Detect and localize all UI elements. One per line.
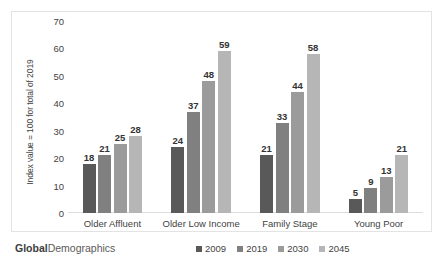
bar-column[interactable]: 18 [83,21,96,213]
legend-item[interactable]: 2030 [278,243,308,254]
bar-column[interactable]: 21 [98,21,111,213]
legend-item[interactable]: 2045 [319,243,349,254]
bar[interactable] [129,136,142,213]
bar-column[interactable]: 9 [364,21,377,213]
bar[interactable] [114,144,127,213]
y-axis-tick-label: 60 [53,43,64,54]
bar[interactable] [380,177,393,213]
brand-name-bold: Global [15,242,48,254]
category-label: Young Poor [354,218,403,229]
bar[interactable] [98,155,111,213]
bar[interactable] [171,147,184,213]
bar[interactable] [202,81,215,213]
category-axis-labels: Older AffluentOlder Low IncomeFamily Sta… [68,218,423,234]
y-axis-title: Index value = 100 for total of 2019 [24,0,37,32]
category-label: Older Low Income [163,218,240,229]
bar-column[interactable]: 44 [291,21,304,213]
bar-group: 591321 [334,21,423,213]
bar[interactable] [395,155,408,213]
bar-value-label: 58 [308,42,319,53]
bar-value-label: 59 [219,39,230,50]
bar-column[interactable]: 13 [380,21,393,213]
bar[interactable] [364,188,377,213]
bar-value-label: 33 [277,111,288,122]
bar-group: 24374859 [157,21,246,213]
legend-item[interactable]: 2009 [196,243,226,254]
bar-column[interactable]: 21 [260,21,273,213]
bar[interactable] [291,92,304,213]
y-axis-tick-label: 50 [53,70,64,81]
chart-legend: 2009201920302045 [196,243,361,254]
bar-value-label: 48 [204,69,215,80]
category-label: Older Affluent [84,218,141,229]
legend-label: 2009 [205,243,226,254]
legend-label: 2019 [246,243,267,254]
bar-group: 21334458 [246,21,335,213]
y-axis-tick-label: 0 [59,208,64,219]
bar-column[interactable]: 21 [395,21,408,213]
legend-swatch-icon [278,246,284,252]
bar-column[interactable]: 58 [307,21,320,213]
bar-value-label: 9 [368,176,373,187]
bar-column[interactable]: 5 [349,21,362,213]
legend-swatch-icon [319,246,325,252]
y-axis-tick-label: 30 [53,125,64,136]
bar[interactable] [187,112,200,213]
brand-name-rest: Demographics [48,242,116,254]
bar-column[interactable]: 37 [187,21,200,213]
chart-footer: GlobalDemographics 2009201920302045 [0,240,444,267]
bar-column[interactable]: 24 [171,21,184,213]
bar-column[interactable]: 48 [202,21,215,213]
legend-swatch-icon [237,246,243,252]
legend-label: 2045 [328,243,349,254]
y-axis-title-text: Index value = 100 for total of 2019 [24,32,37,212]
bar[interactable] [276,123,289,214]
bar-group: 18212528 [68,21,157,213]
bar-value-label: 25 [115,132,126,143]
bar-column[interactable]: 28 [129,21,142,213]
bar-value-label: 24 [173,135,184,146]
bar[interactable] [83,164,96,213]
bar-column[interactable]: 25 [114,21,127,213]
bar[interactable] [218,51,231,213]
category-label: Family Stage [262,218,317,229]
bar-column[interactable]: 59 [218,21,231,213]
bar[interactable] [260,155,273,213]
bar-value-label: 28 [130,124,141,135]
brand-logo: GlobalDemographics [15,242,115,254]
y-axis-tick-label: 70 [53,16,64,27]
bar-value-label: 18 [84,152,95,163]
bar-value-label: 21 [397,143,408,154]
legend-item[interactable]: 2019 [237,243,267,254]
chart-frame: Index value = 100 for total of 2019 0102… [11,11,432,232]
bar[interactable] [307,54,320,213]
y-axis-tick-label: 20 [53,153,64,164]
y-axis-ticks: 010203040506070 [40,12,64,231]
bar[interactable] [349,199,362,213]
bar-value-label: 13 [381,165,392,176]
legend-label: 2030 [287,243,308,254]
bar-value-label: 44 [292,80,303,91]
bar-value-label: 37 [188,100,199,111]
plot-area: 182125282437485921334458591321 [68,21,423,213]
y-axis-tick-label: 40 [53,98,64,109]
bar-value-label: 21 [99,143,110,154]
bar-column[interactable]: 33 [276,21,289,213]
bar-value-label: 5 [353,187,358,198]
bar-value-label: 21 [261,143,272,154]
legend-swatch-icon [196,246,202,252]
y-axis-tick-label: 10 [53,180,64,191]
